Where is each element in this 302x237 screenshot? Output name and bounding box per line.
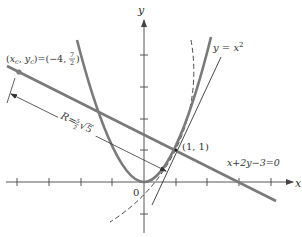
origin-label: 0 (133, 187, 139, 198)
x-axis-label: x (295, 177, 302, 190)
y-axis (140, 20, 148, 233)
center-label-frac-den: 2 (70, 59, 74, 67)
y-axis-label: y (137, 4, 145, 17)
radius-label: R = 5 2 √ 5 (56, 109, 100, 140)
center-label: (xc, yc)=(−4, 7 2 ) (6, 51, 80, 67)
svg-text:): ) (76, 53, 80, 64)
tangent-line (152, 57, 221, 205)
parabola-label-exponent: 2 (239, 41, 243, 49)
radius-extension-line (7, 78, 15, 103)
svg-text:y = x2: y = x2 (212, 41, 244, 53)
tangency-point (174, 148, 177, 151)
parabola-label: y = x2 (212, 41, 244, 53)
tangency-point-label: (1, 1) (182, 141, 209, 152)
osculating-circle-figure: y x 0 y = x2 (1, 1) x+2y−3=0 (xc, yc)=(−… (0, 0, 302, 237)
center-label-frac-num: 7 (70, 51, 74, 59)
parabola-label-main: y = x (212, 42, 239, 53)
normal-line-label: x+2y−3=0 (227, 157, 280, 168)
center-point (16, 69, 21, 74)
svg-text:(xc, yc)=(−4,: (xc, yc)=(−4, (6, 53, 66, 66)
diagram-canvas: y x 0 y = x2 (1, 1) x+2y−3=0 (xc, yc)=(−… (0, 0, 302, 237)
